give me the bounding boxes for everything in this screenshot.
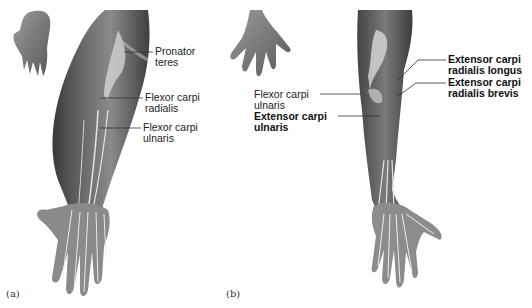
leader-line-extensor-carpi-radialis-brevis [398,83,446,96]
forearm-anterior [37,10,149,296]
label-line: teres [155,57,195,68]
label-line: radialis longus [448,65,522,76]
small-hand-b [230,10,290,76]
label-flexor-carpi-ulnaris: Flexor carpi ulnaris [143,122,198,144]
label-flexor-carpi-radialis: Flexor carpi radialis [145,92,200,114]
label-line: ulnaris [143,133,198,144]
label-b-flexor-carpi-ulnaris: Flexor carpi ulnaris [254,89,309,111]
label-extensor-carpi-ulnaris: Extensor carpi ulnaris [254,111,327,133]
label-pronator-teres: Pronator teres [155,46,195,68]
label-line: radialis [145,103,200,114]
anatomy-illustration [0,0,532,308]
panel-letter-a: (a) [6,288,20,299]
label-extensor-carpi-radialis-longus: Extensor carpi radialis longus [448,54,522,76]
small-hand-a [13,11,50,76]
label-line: ulnaris [254,122,327,133]
label-line: radialis brevis [448,88,521,99]
label-extensor-carpi-radialis-brevis: Extensor carpi radialis brevis [448,77,521,99]
forearm-posterior [357,10,441,288]
panel-letter-b: (b) [226,288,240,299]
